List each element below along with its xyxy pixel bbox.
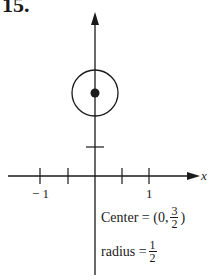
radius-prefix: radius = <box>101 244 147 260</box>
tick-label-neg1: − 1 <box>32 186 49 202</box>
x-axis-label: x <box>201 168 207 184</box>
y-axis-arrow-icon <box>91 12 99 25</box>
radius-denominator: 2 <box>150 252 156 264</box>
center-y-fraction: 3 2 <box>170 205 178 230</box>
center-point <box>91 89 100 98</box>
radius-fraction: 1 2 <box>149 239 157 264</box>
tick-label-pos1: 1 <box>146 186 153 202</box>
center-suffix: ) <box>180 210 185 226</box>
center-equation: Center = (0, 3 2 ) <box>101 205 185 230</box>
center-y-denominator: 2 <box>171 218 177 230</box>
x-axis-arrow-icon <box>187 172 200 180</box>
coordinate-plane <box>0 0 208 280</box>
radius-equation: radius = 1 2 <box>101 239 159 264</box>
center-prefix: Center = (0, <box>101 210 168 226</box>
